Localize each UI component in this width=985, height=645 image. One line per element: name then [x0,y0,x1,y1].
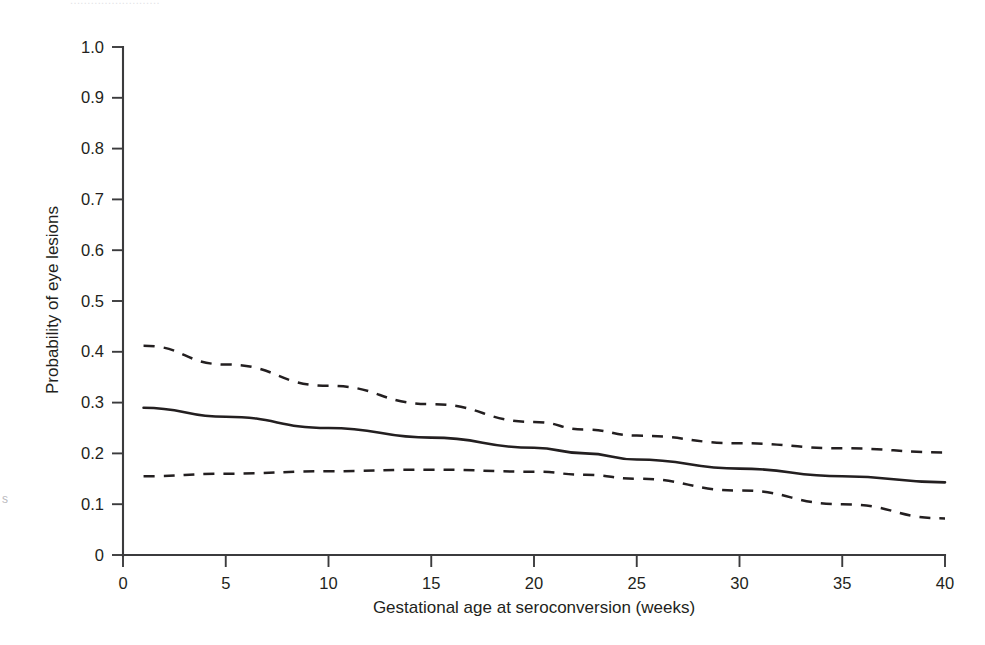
y-tick-label: 0.3 [81,393,104,411]
x-tick-label: 30 [730,574,748,592]
y-tick-label: 0.5 [81,292,104,310]
x-tick-label: 5 [221,574,230,592]
line-chart: 00.10.20.30.40.50.60.70.80.91.0 05101520… [0,0,985,645]
y-tick-label: 0.2 [81,444,104,462]
y-tick-label: 0.1 [81,495,104,513]
x-tick-label: 15 [422,574,440,592]
x-axis-title: Gestational age at seroconversion (weeks… [373,598,695,617]
chart-page: .......................... s 00.10.20.30… [0,0,985,645]
y-axis-ticks [112,47,123,555]
x-tick-label: 0 [118,574,127,592]
y-tick-label: 0.9 [81,88,104,106]
x-tick-label: 25 [628,574,646,592]
data-series-group [144,346,945,519]
confidence-limit-line [144,346,945,453]
y-tick-label: 0.6 [81,241,104,259]
x-tick-label: 20 [525,574,543,592]
x-axis-ticks [123,555,945,567]
y-tick-label: 0.4 [81,342,104,360]
x-tick-label: 10 [319,574,337,592]
y-axis-title: Probability of eye lesions [43,206,62,394]
y-tick-label: 0.7 [81,190,104,208]
y-axis-tick-labels: 00.10.20.30.40.50.60.70.80.91.0 [81,38,104,564]
x-axis-tick-labels: 0510152025303540 [118,574,954,592]
x-tick-label: 35 [833,574,851,592]
x-tick-label: 40 [936,574,954,592]
chart-canvas: 00.10.20.30.40.50.60.70.80.91.0 05101520… [0,0,985,645]
y-tick-label: 1.0 [81,38,104,56]
y-tick-label: 0.8 [81,139,104,157]
y-tick-label: 0 [95,546,104,564]
